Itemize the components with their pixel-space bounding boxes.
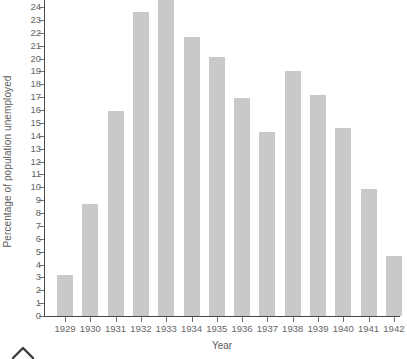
x-tick-label: 1936 [232, 324, 253, 334]
y-tick-label: 24 [30, 2, 41, 12]
bar [57, 275, 73, 316]
x-tick-label: 1933 [156, 324, 177, 334]
x-tick-mark [267, 317, 268, 322]
bar [386, 256, 402, 317]
y-tick-label: 21 [30, 41, 41, 51]
bar [108, 111, 124, 316]
x-tick-mark [90, 317, 91, 322]
x-tick-mark [65, 317, 66, 322]
bar [285, 71, 301, 316]
bar [209, 57, 225, 316]
y-tick-label: 20 [30, 54, 41, 64]
y-tick-label: 0 [36, 311, 41, 321]
caret-up-icon[interactable] [10, 345, 36, 359]
bar [335, 128, 351, 316]
y-tick-label: 16 [30, 105, 41, 115]
y-tick-label: 5 [36, 247, 41, 257]
x-tick-mark [166, 317, 167, 322]
y-axis-line [44, 0, 45, 317]
x-tick-mark [192, 317, 193, 322]
bar [310, 95, 326, 316]
x-axis-line [44, 316, 400, 317]
x-tick-mark [141, 317, 142, 322]
bar [259, 132, 275, 316]
x-axis-title-label: Year [212, 340, 232, 351]
x-tick-label: 1930 [80, 324, 101, 334]
x-tick-mark [343, 317, 344, 322]
y-tick-label: 14 [30, 131, 41, 141]
x-tick-label: 1938 [282, 324, 303, 334]
y-tick-label: 17 [30, 92, 41, 102]
y-tick-label: 19 [30, 67, 41, 77]
x-tick-label: 1932 [130, 324, 151, 334]
y-tick-label: 9 [36, 195, 41, 205]
x-tick-label: 1939 [307, 324, 328, 334]
x-tick-label: 1940 [333, 324, 354, 334]
plot-area: 0123456789101112131415161718192021222324… [44, 0, 400, 317]
y-tick-label: 12 [30, 157, 41, 167]
y-tick-label: 8 [36, 208, 41, 218]
x-axis-title: Year [44, 340, 400, 351]
bar [234, 98, 250, 316]
y-axis-title-label: Percentage of population unemployed [3, 75, 14, 247]
y-tick-label: 23 [30, 15, 41, 25]
y-tick-label: 13 [30, 144, 41, 154]
x-tick-label: 1934 [181, 324, 202, 334]
y-tick-label: 22 [30, 28, 41, 38]
x-tick-label: 1941 [358, 324, 379, 334]
y-tick-label: 18 [30, 80, 41, 90]
x-tick-mark [369, 317, 370, 322]
y-tick-label: 10 [30, 183, 41, 193]
bar-chart: Percentage of population unemployed 0123… [0, 0, 407, 359]
bar [133, 12, 149, 316]
y-axis-title: Percentage of population unemployed [0, 0, 16, 322]
x-tick-label: 1942 [383, 324, 404, 334]
x-tick-label: 1931 [105, 324, 126, 334]
y-tick-label: 4 [36, 260, 41, 270]
x-tick-mark [318, 317, 319, 322]
bar [158, 0, 174, 316]
bar [184, 37, 200, 316]
x-tick-label: 1937 [257, 324, 278, 334]
x-tick-mark [116, 317, 117, 322]
y-tick-label: 3 [36, 273, 41, 283]
x-tick-mark [394, 317, 395, 322]
y-tick-label: 2 [36, 286, 41, 296]
y-tick-label: 7 [36, 221, 41, 231]
x-tick-label: 1935 [206, 324, 227, 334]
x-tick-label: 1929 [54, 324, 75, 334]
x-tick-mark [293, 317, 294, 322]
bar [82, 204, 98, 316]
y-tick-label: 6 [36, 234, 41, 244]
y-tick-label: 15 [30, 118, 41, 128]
y-tick-label: 11 [31, 170, 41, 180]
y-tick-label: 1 [36, 298, 41, 308]
bar [361, 189, 377, 316]
x-tick-mark [217, 317, 218, 322]
x-tick-mark [242, 317, 243, 322]
